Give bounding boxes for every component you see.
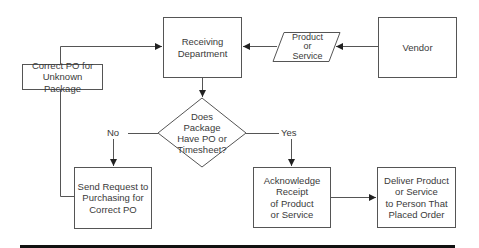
edge-send-request-to-correct-po — [61, 90, 75, 197]
deliver-product-box — [378, 168, 456, 228]
flowchart-canvas — [0, 0, 479, 248]
send-request-box — [75, 168, 152, 229]
product-or-service-parallelogram — [273, 33, 340, 62]
vendor-box — [379, 18, 457, 78]
receiving-department-box — [164, 18, 242, 78]
edge-label-yes: Yes — [280, 127, 298, 138]
edge-label-no: No — [106, 127, 120, 138]
correct-po-box — [23, 65, 103, 90]
edge-correct-po-to-receiving — [61, 47, 163, 65]
acknowledge-receipt-box — [254, 168, 331, 228]
decision-diamond — [158, 98, 246, 167]
